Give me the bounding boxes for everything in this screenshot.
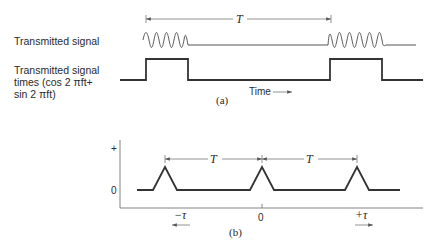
caption-a: (a) (216, 94, 229, 107)
gated-pulse-waveform (120, 59, 423, 80)
transmitted-signal-label: Transmitted signal (14, 35, 99, 47)
period-label-b-left: T (210, 152, 218, 166)
period-label-b-right: T (306, 152, 314, 166)
negative-tau-indicator: −τ (172, 208, 190, 225)
transmitted-signal-waveform (143, 33, 416, 48)
svg-text:−τ: −τ (174, 208, 187, 222)
diagram-canvas: Transmitted signal Transmitted signal ti… (0, 0, 439, 245)
caption-b: (b) (229, 226, 242, 239)
svg-text:Time: Time (249, 86, 271, 97)
positive-tau-indicator: +τ (355, 208, 373, 225)
panel-b: + 0 T T 0 −τ +τ (b) (111, 140, 423, 239)
panel-a: Transmitted signal Transmitted signal ti… (14, 12, 423, 107)
period-dimension-a: T (146, 12, 331, 26)
correlation-waveform (137, 167, 400, 190)
svg-text:+τ: +τ (355, 208, 368, 222)
time-axis-label: Time (249, 86, 292, 97)
period-dimension-b: T T (165, 152, 357, 166)
y-plus-label: + (111, 143, 117, 154)
multiplied-signal-label-line1: Transmitted signal (14, 64, 99, 76)
multiplied-signal-label-line3: sin 2 πft) (14, 88, 56, 100)
x-zero-label: 0 (258, 212, 264, 223)
period-label-a: T (236, 12, 244, 26)
multiplied-signal-label-line2: times (cos 2 πft+ (14, 76, 93, 88)
y-zero-label: 0 (111, 185, 117, 196)
